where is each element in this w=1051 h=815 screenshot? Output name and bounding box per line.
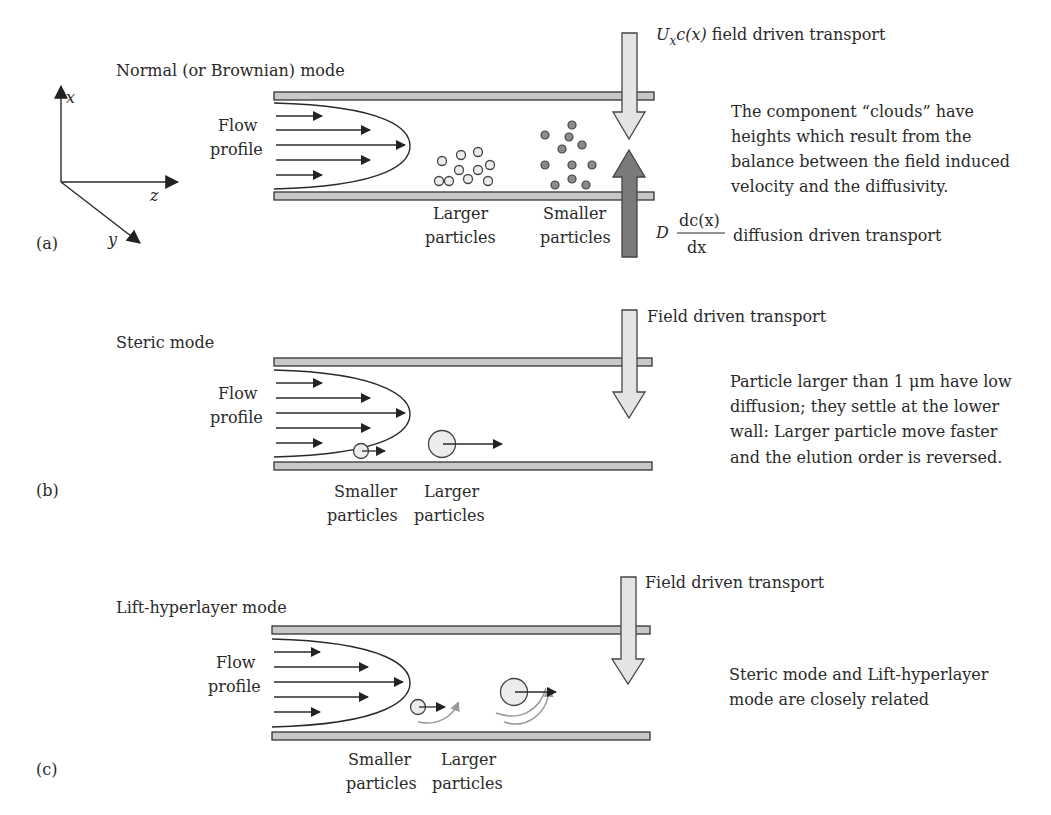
smaller-particles-label-line2: particles — [540, 228, 611, 247]
math-numerator: dc(x) — [679, 211, 720, 230]
smaller-particles-label-line1: Smaller — [334, 482, 397, 501]
panel-c-label: (c) — [36, 760, 57, 779]
y-axis-label: y — [107, 230, 118, 249]
y-axis-arrow — [61, 182, 140, 243]
math-D: D — [655, 223, 669, 242]
svg-text:velocity and the diffusivity.: velocity and the diffusivity. — [730, 177, 948, 196]
flow-label-line1: Flow — [218, 384, 258, 403]
larger-particles-label-line2: particles — [425, 228, 496, 247]
coordinate-axes: x z y — [61, 86, 178, 249]
channel-bottom-wall — [274, 462, 652, 470]
x-axis-label: x — [66, 88, 75, 107]
panel-b-label: (b) — [36, 481, 59, 500]
svg-text:balance between the field indu: balance between the field induced — [731, 152, 1010, 171]
panel-c-description: Steric mode and Lift-hyperlayer mode are… — [729, 665, 989, 709]
svg-text:wall: Larger particle move fas: wall: Larger particle move faster — [730, 422, 998, 441]
smaller-particles-label-line2: particles — [327, 506, 398, 525]
smaller-particles-label-line1: Smaller — [348, 750, 411, 769]
fff-modes-diagram: x z y Normal (or Brownian) mode (a) Flow… — [0, 0, 1051, 815]
diffusion-transport-text: diffusion driven transport — [733, 226, 942, 245]
channel-top-wall — [274, 92, 654, 100]
channel-bottom-wall — [272, 732, 650, 740]
svg-text:The component “clouds” have: The component “clouds” have — [731, 102, 974, 121]
larger-particles-label-line1: Larger — [441, 750, 497, 769]
channel-top-wall — [274, 358, 652, 366]
flow-label-line1: Flow — [218, 116, 258, 135]
svg-text:mode are closely related: mode are closely related — [729, 690, 929, 709]
svg-text:and the elution order is rever: and the elution order is reversed. — [730, 448, 1002, 467]
panel-a-label: (a) — [36, 234, 58, 253]
flow-label-line2: profile — [208, 677, 261, 696]
panel-b-steric-mode: Steric mode (b) Flow profile Smaller par… — [36, 307, 1012, 525]
flow-label-line1: Flow — [216, 653, 256, 672]
smaller-particles-cloud — [541, 121, 596, 189]
svg-text:Steric mode and Lift-hyperlaye: Steric mode and Lift-hyperlayer — [729, 665, 989, 684]
panel-a-description: The component “clouds” have heights whic… — [730, 102, 1010, 196]
field-transport-label: Field driven transport — [645, 573, 825, 592]
panel-c-title: Lift-hyperlayer mode — [116, 598, 287, 617]
math-U: U — [656, 25, 670, 44]
diffusion-transport-label: D dc(x) dx diffusion driven transport — [655, 211, 942, 257]
math-c-of-x: c(x) — [676, 25, 706, 44]
flow-label-line2: profile — [210, 408, 263, 427]
flow-arrows — [276, 116, 405, 175]
field-transport-text: field driven transport — [707, 25, 886, 44]
diffusion-transport-arrow-up — [613, 150, 645, 257]
channel-top-wall — [272, 626, 650, 634]
flow-arrows — [276, 383, 405, 443]
panel-c-lift-hyperlayer-mode: Lift-hyperlayer mode (c) Flow profile Sm… — [36, 573, 989, 793]
smaller-particles-label-line2: particles — [346, 774, 417, 793]
smaller-particles-label-line1: Smaller — [543, 204, 606, 223]
larger-particles-cloud — [435, 148, 495, 186]
z-axis-label: z — [149, 186, 159, 205]
svg-text:heights which result from the: heights which result from the — [731, 127, 972, 146]
flow-label-line2: profile — [210, 140, 263, 159]
larger-particles-label-line1: Larger — [424, 482, 480, 501]
svg-text:diffusion; they settle at the: diffusion; they settle at the lower — [730, 397, 1000, 416]
svg-text:Particle larger than 1 μm have: Particle larger than 1 μm have low — [730, 372, 1012, 391]
svg-text:Uxc(x) field driven transport: Uxc(x) field driven transport — [656, 25, 886, 48]
channel-bottom-wall — [274, 192, 654, 200]
larger-particles-label-line1: Larger — [433, 204, 489, 223]
larger-particles-label-line2: particles — [414, 506, 485, 525]
field-transport-label: Field driven transport — [647, 307, 827, 326]
flow-arrows — [274, 652, 403, 712]
field-transport-label: Uxc(x) field driven transport — [656, 25, 886, 48]
panel-b-description: Particle larger than 1 μm have low diffu… — [730, 372, 1012, 467]
panel-a-title: Normal (or Brownian) mode — [116, 61, 345, 80]
field-transport-arrow-down — [613, 33, 645, 139]
panel-a-normal-mode: Normal (or Brownian) mode (a) Flow profi… — [36, 25, 1010, 257]
math-denominator: dx — [687, 238, 706, 257]
panel-b-title: Steric mode — [116, 333, 214, 352]
larger-particles-label-line2: particles — [432, 774, 503, 793]
